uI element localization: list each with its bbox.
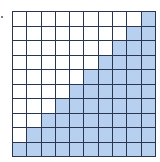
grid-cell-shaded <box>113 114 127 129</box>
grid-cell-shaded <box>127 70 141 85</box>
grid-cell-shaded <box>70 99 84 114</box>
grid-cell-shaded <box>113 85 127 100</box>
grid-cell <box>113 27 127 42</box>
grid-cell <box>84 41 98 56</box>
grid-cell <box>42 85 56 100</box>
grid-cell <box>27 27 41 42</box>
grid-cell <box>127 12 141 27</box>
grid-cell-shaded <box>56 128 70 143</box>
grid-cell <box>84 27 98 42</box>
grid-cell-shaded <box>84 70 98 85</box>
grid-cell-shaded <box>127 85 141 100</box>
grid-cell-shaded <box>142 41 156 56</box>
grid-cell <box>13 56 27 71</box>
grid-cell-shaded <box>70 128 84 143</box>
grid-cell-shaded <box>56 114 70 129</box>
grid-cell <box>27 41 41 56</box>
grid-cell-shaded <box>142 114 156 129</box>
grid-cell-shaded <box>127 56 141 71</box>
grid-cell <box>56 12 70 27</box>
grid-cell <box>99 41 113 56</box>
grid-cell-shaded <box>142 85 156 100</box>
grid-cell-shaded <box>84 85 98 100</box>
grid-cell <box>56 27 70 42</box>
grid-cell-shaded <box>127 41 141 56</box>
grid-cell <box>99 12 113 27</box>
grid-cell-shaded <box>127 99 141 114</box>
grid-cell-shaded <box>99 114 113 129</box>
grid-cell <box>13 99 27 114</box>
grid-cell-shaded <box>70 114 84 129</box>
grid-cell <box>42 27 56 42</box>
grid-cell <box>70 56 84 71</box>
grid-cell <box>27 56 41 71</box>
grid-cell-shaded <box>142 143 156 158</box>
grid-cell-shaded <box>142 27 156 42</box>
grid-cell <box>84 56 98 71</box>
grid-cell <box>70 12 84 27</box>
grid-cell <box>13 27 27 42</box>
grid-cell <box>70 27 84 42</box>
grid-cell <box>13 12 27 27</box>
grid-cell <box>27 85 41 100</box>
grid-cell-shaded <box>113 128 127 143</box>
grid-cell-shaded <box>84 99 98 114</box>
grid-cell <box>42 56 56 71</box>
grid-cell <box>70 41 84 56</box>
grid-cell-shaded <box>84 128 98 143</box>
grid-cell-shaded <box>56 99 70 114</box>
grid-cell-shaded <box>42 143 56 158</box>
grid-cell <box>27 12 41 27</box>
grid-cell-shaded <box>142 70 156 85</box>
grid-cell-shaded <box>113 41 127 56</box>
grid-cell-shaded <box>142 128 156 143</box>
grid-cell-shaded <box>42 114 56 129</box>
grid-cell-shaded <box>113 99 127 114</box>
grid-cell-shaded <box>99 128 113 143</box>
grid-cell-shaded <box>99 85 113 100</box>
grid-cell <box>42 99 56 114</box>
grid-cell-shaded <box>99 143 113 158</box>
grid-cell-shaded <box>99 56 113 71</box>
grid-cell <box>56 56 70 71</box>
grid-cell-shaded <box>99 99 113 114</box>
grid-cell <box>13 114 27 129</box>
grid-cell-shaded <box>13 143 27 158</box>
grid-cell <box>56 85 70 100</box>
hundred-grid <box>12 11 156 157</box>
grid-cell-shaded <box>113 56 127 71</box>
bullet-dot <box>1 16 3 18</box>
grid-cell <box>27 99 41 114</box>
grid-cell <box>113 12 127 27</box>
grid-cell <box>42 70 56 85</box>
grid-cell-shaded <box>56 143 70 158</box>
grid-cell-shaded <box>70 143 84 158</box>
grid-cell <box>56 70 70 85</box>
grid-cell-shaded <box>42 128 56 143</box>
grid-cell-shaded <box>70 85 84 100</box>
grid-cell <box>27 70 41 85</box>
grid-cell <box>84 12 98 27</box>
grid-cell-shaded <box>113 70 127 85</box>
grid-cell-shaded <box>127 128 141 143</box>
grid-cell <box>42 12 56 27</box>
grid-cell-shaded <box>127 114 141 129</box>
grid-cell-shaded <box>27 128 41 143</box>
grid-cell <box>13 128 27 143</box>
grid-cell-shaded <box>142 99 156 114</box>
grid-cell-shaded <box>127 143 141 158</box>
grid-cell-shaded <box>113 143 127 158</box>
grid-cell-shaded <box>84 143 98 158</box>
grid-cell <box>13 70 27 85</box>
grid-cell-shaded <box>84 114 98 129</box>
grid-cell <box>13 41 27 56</box>
grid-cell <box>99 27 113 42</box>
grid-cell-shaded <box>142 12 156 27</box>
grid-cell <box>42 41 56 56</box>
grid-cell <box>56 41 70 56</box>
grid-cell <box>13 85 27 100</box>
grid-cell-shaded <box>27 143 41 158</box>
grid-cell-shaded <box>127 27 141 42</box>
grid-cell-shaded <box>142 56 156 71</box>
grid-cell <box>27 114 41 129</box>
